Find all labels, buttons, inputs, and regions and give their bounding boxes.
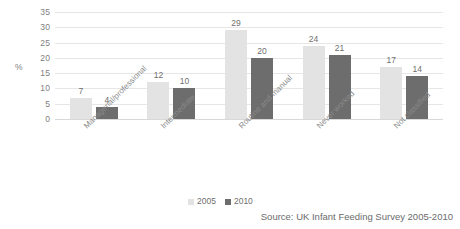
bar-2005	[380, 67, 402, 119]
y-axis-tick-label: 10	[16, 84, 50, 93]
legend-swatch-icon	[188, 199, 194, 205]
legend-swatch-icon	[225, 199, 231, 205]
bar-2005	[303, 46, 325, 119]
bar-2005	[225, 30, 247, 119]
bar-chart: % 35302520151050 741210292024211714 Mana…	[0, 0, 460, 229]
y-axis-tick-label: 0	[16, 115, 50, 124]
source-note: Source: UK Infant Feeding Survey 2005-20…	[0, 211, 453, 222]
legend-label: 2010	[234, 197, 253, 206]
legend-label: 2005	[197, 197, 216, 206]
y-axis-tick-label: 15	[16, 69, 50, 78]
y-axis-tick-label: 30	[16, 23, 50, 32]
bar-value-label: 10	[167, 77, 201, 86]
bar-value-label: 21	[323, 44, 357, 53]
bar-value-label: 14	[400, 65, 434, 74]
legend-item-2005[interactable]: 2005	[188, 197, 216, 206]
bar-2005	[147, 82, 169, 119]
y-axis-tick-label: 35	[16, 8, 50, 17]
y-axis-tick-label: 25	[16, 39, 50, 48]
y-axis-tick-label: 5	[16, 100, 50, 109]
bar-value-label: 29	[219, 19, 253, 28]
chart-legend: 20052010	[188, 197, 253, 206]
bar-value-label: 17	[374, 56, 408, 65]
bar-value-label: 24	[297, 35, 331, 44]
bar-value-label: 7	[64, 87, 98, 96]
bar-value-label: 20	[245, 47, 279, 56]
legend-item-2010[interactable]: 2010	[225, 197, 253, 206]
y-axis-ticks: 35302520151050	[12, 12, 50, 119]
y-axis-tick-label: 20	[16, 54, 50, 63]
